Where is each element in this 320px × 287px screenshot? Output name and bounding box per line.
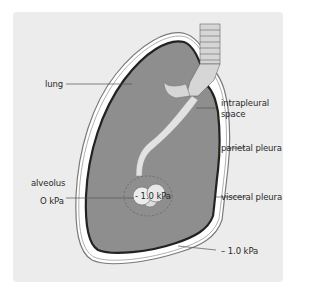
label-intrapleural-pressure: – 1.0 kPa xyxy=(221,246,258,256)
label-atmospheric-pressure: O kPa xyxy=(40,196,64,206)
label-intrapleural-space-1: intrapleural xyxy=(221,98,269,108)
label-alveolus: alveolus xyxy=(31,178,65,188)
label-visceral-pleura: visceral pleura xyxy=(221,192,282,202)
label-parietal-pleura: parietal pleura xyxy=(221,143,282,153)
label-alveolar-pressure: - 1.0 kPa xyxy=(135,191,171,201)
label-lung: lung xyxy=(45,79,63,89)
label-intrapleural-space-2: space xyxy=(221,109,245,119)
